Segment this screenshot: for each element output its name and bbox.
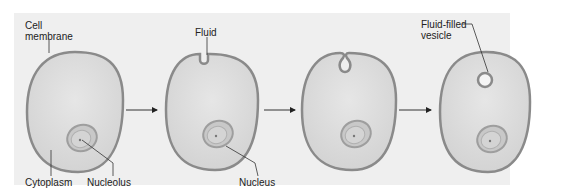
- label-cell-membrane-line1: Cell: [25, 20, 42, 31]
- cell-stage-4: [440, 52, 530, 172]
- cell-membrane: [440, 52, 530, 172]
- nucleolus: [215, 135, 217, 137]
- label-cytoplasm: Cytoplasm: [25, 177, 72, 188]
- nucleolus: [79, 139, 81, 141]
- cell-stage-2: [166, 54, 258, 170]
- pinocytosis-diagram: [0, 0, 564, 194]
- nucleolus: [489, 140, 491, 142]
- cell-membrane: [166, 54, 258, 170]
- cell-membrane: [27, 52, 123, 172]
- cell-membrane: [302, 53, 396, 170]
- fluid-filled-vesicle: [478, 73, 492, 87]
- label-nucleolus: Nucleolus: [87, 177, 131, 188]
- label-nucleus: Nucleus: [239, 177, 275, 188]
- label-vesicle-line1: Fluid-filled: [421, 19, 467, 30]
- cell-stage-1: [27, 52, 123, 172]
- label-fluid: Fluid: [195, 27, 217, 38]
- label-cell-membrane-line2: membrane: [25, 31, 73, 42]
- cell-stage-3: [302, 53, 396, 170]
- nucleolus: [353, 135, 355, 137]
- label-vesicle-line2: vesicle: [421, 30, 452, 41]
